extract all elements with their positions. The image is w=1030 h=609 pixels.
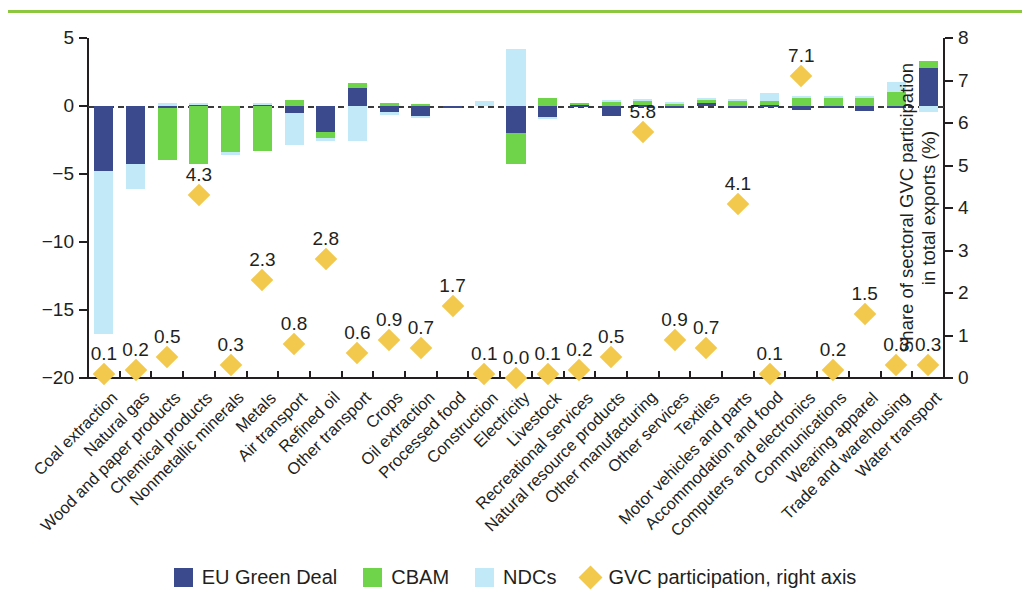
y-axis-right-title-line2: in total exports (%)	[918, 38, 940, 378]
gvc-participation-value-label: 0.1	[534, 344, 560, 363]
bar-segment-ndcs	[253, 103, 272, 105]
bar-segment-cbam	[411, 104, 430, 106]
bar-segment-ndcs	[411, 116, 430, 118]
bar-segment-ndcs	[380, 112, 399, 115]
x-axis-tick	[119, 371, 121, 379]
gvc-participation-value-label: 0.7	[693, 318, 719, 337]
bar-segment-ndcs	[855, 96, 874, 98]
gvc-participation-value-label: 0.9	[376, 310, 402, 329]
bar-segment-ngd	[824, 106, 843, 108]
legend-square-icon	[475, 568, 494, 587]
bar-segment-ndcs	[158, 103, 177, 106]
y-axis-left-tick-label: −20	[42, 368, 74, 387]
x-axis-tick	[658, 371, 660, 379]
gvc-participation-value-label: 0.2	[566, 340, 592, 359]
legend-item[interactable]: GVC participation, right axis	[582, 567, 856, 587]
y-axis-right-tick	[945, 335, 953, 337]
bar-segment-cbam	[380, 103, 399, 106]
bar-group	[633, 38, 652, 378]
y-axis-left-tick-label: −10	[42, 232, 74, 251]
legend-diamond-icon	[579, 565, 603, 589]
x-axis-tick	[341, 371, 343, 379]
bar-segment-ndcs	[189, 103, 208, 105]
bar-segment-ndcs	[506, 49, 525, 106]
x-axis-tick	[848, 371, 850, 379]
bar-segment-ndcs	[602, 100, 621, 102]
bar-segment-ngd	[760, 105, 779, 107]
bar-segment-ngd	[348, 88, 367, 106]
y-axis-left-tick	[79, 105, 87, 107]
x-axis-tick	[372, 371, 374, 379]
y-axis-right-tick	[945, 37, 953, 39]
y-axis-right-title-line1: Share of sectoral GVC participation	[896, 63, 917, 353]
bar-segment-cbam	[824, 96, 843, 106]
y-axis-right-tick-label: 1	[958, 326, 969, 345]
y-axis-right-tick-label: 5	[958, 156, 969, 175]
x-axis-tick	[753, 371, 755, 379]
y-axis-left-tick-label: 5	[63, 28, 74, 47]
bar-segment-ndcs	[792, 96, 811, 98]
gvc-participation-value-label: 0.1	[471, 344, 497, 363]
x-axis-tick	[943, 371, 945, 379]
gvc-participation-value-label: 0.6	[344, 323, 370, 342]
bar-segment-ngd	[855, 106, 874, 111]
bar-segment-ndcs	[126, 164, 145, 188]
bar-segment-ndcs	[538, 117, 557, 119]
x-axis-tick	[816, 371, 818, 379]
gvc-participation-value-label: 0.1	[91, 344, 117, 363]
y-axis-left-tick	[79, 241, 87, 243]
y-axis-right-tick	[945, 377, 953, 379]
y-axis-right-tick	[945, 292, 953, 294]
gvc-participation-value-label: 2.3	[249, 250, 275, 269]
x-axis-tick	[563, 371, 565, 379]
bar-segment-ngd	[94, 106, 113, 171]
bar-group	[253, 38, 272, 378]
left-axis-line	[87, 38, 89, 378]
bar-segment-ndcs	[285, 113, 304, 146]
bar-segment-cbam	[792, 97, 811, 106]
bar-segment-cbam	[221, 106, 240, 152]
legend-label: NDCs	[503, 567, 556, 587]
bar-segment-ngd	[665, 106, 684, 108]
bar-segment-cbam	[855, 97, 874, 106]
bar-segment-ngd	[728, 106, 747, 108]
bar-group	[538, 38, 557, 378]
bar-group	[189, 38, 208, 378]
chart-figure: 50−5−10−15−20 876543210 0.10.20.54.30.32…	[0, 0, 1030, 609]
bar-segment-ndcs	[221, 152, 240, 155]
gvc-participation-value-label: 1.7	[439, 276, 465, 295]
x-axis-tick	[150, 371, 152, 379]
x-axis-tick	[309, 371, 311, 379]
bar-group	[94, 38, 113, 378]
legend-item[interactable]: CBAM	[363, 567, 449, 587]
y-axis-right-tick-label: 0	[958, 368, 969, 387]
bar-segment-ndcs	[824, 96, 843, 98]
gvc-participation-value-label: 0.9	[661, 310, 687, 329]
y-axis-right-tick-label: 2	[958, 283, 969, 302]
bar-segment-cbam	[570, 103, 589, 105]
x-axis-tick	[626, 371, 628, 379]
bar-segment-ndcs	[348, 106, 367, 141]
legend-square-icon	[363, 568, 382, 587]
bar-group	[760, 38, 779, 378]
x-axis-tick	[277, 371, 279, 379]
bar-segment-cbam	[728, 101, 747, 106]
y-axis-right-tick-label: 3	[958, 241, 969, 260]
legend-square-icon	[174, 568, 193, 587]
x-axis-tick	[467, 371, 469, 379]
y-axis-left-tick	[79, 377, 87, 379]
bar-segment-ndcs	[94, 171, 113, 334]
bar-group	[475, 38, 494, 378]
legend-label: CBAM	[391, 567, 449, 587]
legend-item[interactable]: EU Green Deal	[174, 567, 338, 587]
bar-segment-cbam	[506, 133, 525, 164]
y-axis-right-title: Share of sectoral GVC participation in t…	[896, 38, 940, 378]
x-axis-tick	[214, 371, 216, 379]
x-axis-tick	[246, 371, 248, 379]
bar-segment-ndcs	[697, 98, 716, 100]
bar-segment-ngd	[411, 106, 430, 116]
y-axis-right-tick-label: 4	[958, 198, 969, 217]
y-axis-left-tick	[79, 309, 87, 311]
y-axis-right-tick	[945, 250, 953, 252]
legend-item[interactable]: NDCs	[475, 567, 556, 587]
